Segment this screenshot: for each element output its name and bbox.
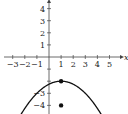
y-tick-label: 2 — [40, 29, 45, 38]
points — [59, 79, 63, 108]
x-tick-label: 3 — [83, 60, 88, 69]
vertex-point — [59, 79, 63, 83]
x-tick-label: 1 — [59, 60, 64, 69]
x-axis-label: x — [124, 53, 128, 62]
x-tick-label: 4 — [95, 60, 100, 69]
y-tick-label: 1 — [40, 41, 45, 50]
curves — [5, 81, 116, 114]
y-axis-arrow-icon — [47, 0, 51, 3]
parabola-curve — [5, 81, 116, 114]
x-tick-label: −1 — [31, 60, 43, 69]
ticks: −3−2−1123454321−3−4 — [7, 5, 112, 111]
y-tick-label: 4 — [40, 5, 45, 14]
y-tick-label: −4 — [33, 101, 45, 110]
x-tick-label: −2 — [19, 60, 31, 69]
y-tick-label: 3 — [40, 17, 45, 26]
x-tick-label: −3 — [7, 60, 19, 69]
x-tick-label: 2 — [71, 60, 76, 69]
isolated-point — [59, 103, 63, 107]
parabola-chart: x −3−2−1123454321−3−4 — [0, 0, 128, 114]
x-tick-label: 5 — [107, 60, 112, 69]
